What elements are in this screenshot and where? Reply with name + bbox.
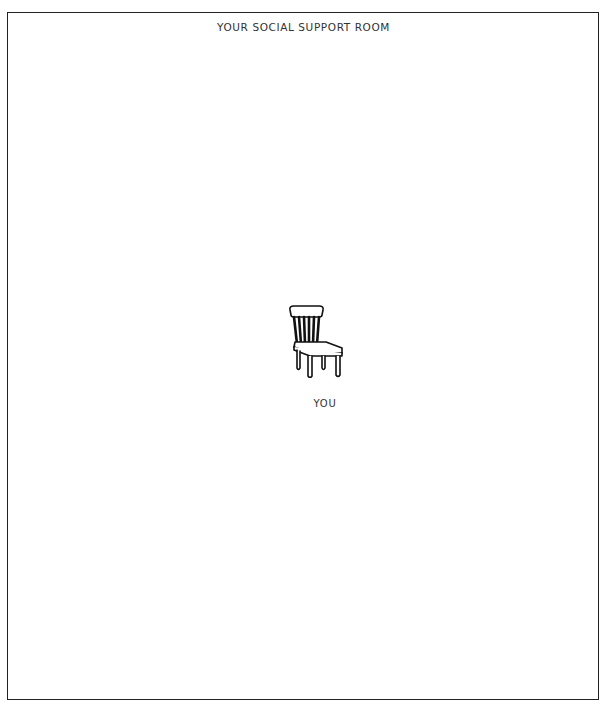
you-label: YOU: [295, 398, 355, 409]
room-title: YOUR SOCIAL SUPPORT ROOM: [0, 21, 607, 33]
chair-icon: [286, 304, 346, 378]
